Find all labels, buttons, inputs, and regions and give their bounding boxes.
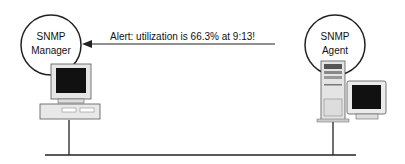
manager-label-line1: SNMP <box>37 31 66 42</box>
arrowhead-icon <box>82 40 92 48</box>
snmp-diagram: Alert: utilization is 66.3% at 9:13! SNM… <box>0 0 405 164</box>
agent-monitor-icon <box>347 81 386 119</box>
agent-label-line2: Agent <box>322 45 348 56</box>
alert-message: Alert: utilization is 66.3% at 9:13! <box>110 31 255 42</box>
manager-label-line2: Manager <box>31 45 71 56</box>
agent-server-icon <box>317 61 349 122</box>
agent-label-line1: SNMP <box>321 31 350 42</box>
